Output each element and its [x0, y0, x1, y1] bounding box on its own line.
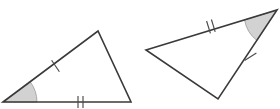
geometry-figure: Two triangles with congruence markings L…	[0, 0, 280, 109]
figure-background	[0, 0, 280, 109]
figure-canvas	[0, 0, 280, 109]
